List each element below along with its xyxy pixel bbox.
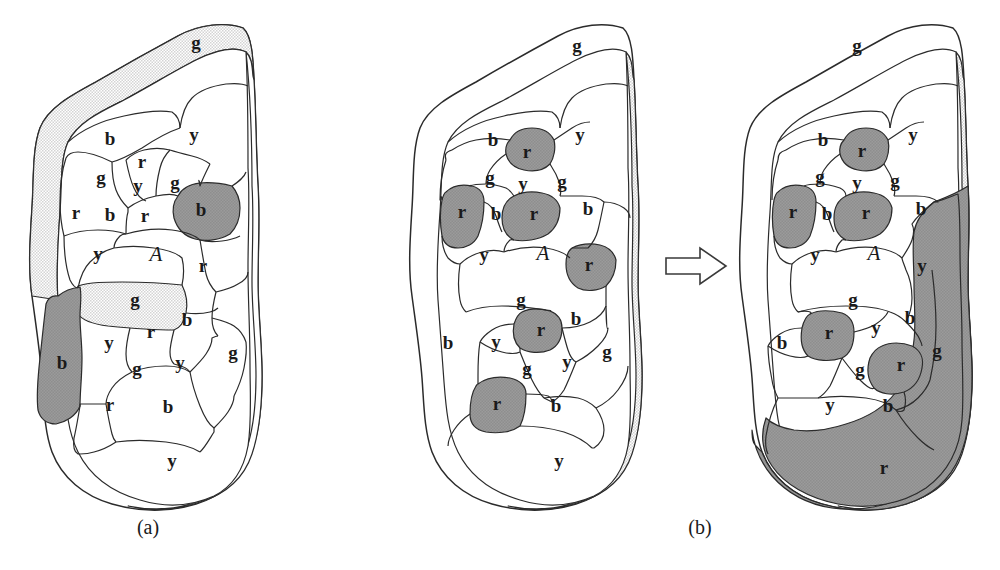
transformation-arrow	[666, 248, 726, 284]
panel-a-region-g-mid	[75, 282, 187, 330]
panel-b-left-region-r-right	[566, 244, 616, 290]
caption-b: (b)	[688, 516, 711, 539]
map-coloring-figure: (a)	[0, 0, 1000, 570]
arrow-right-icon	[666, 248, 726, 284]
panel-b-left-region-r-lower	[513, 309, 562, 353]
caption-a: (a)	[137, 516, 159, 539]
panel-b-left-region-r-bottom	[470, 377, 526, 433]
figure-canvas: (a)	[0, 0, 1000, 570]
panel-b-right: (b)	[688, 25, 972, 539]
panel-b-left	[410, 25, 642, 510]
panel-b-right-region-r-lowleft	[801, 311, 854, 361]
panel-a: (a)	[30, 25, 262, 539]
